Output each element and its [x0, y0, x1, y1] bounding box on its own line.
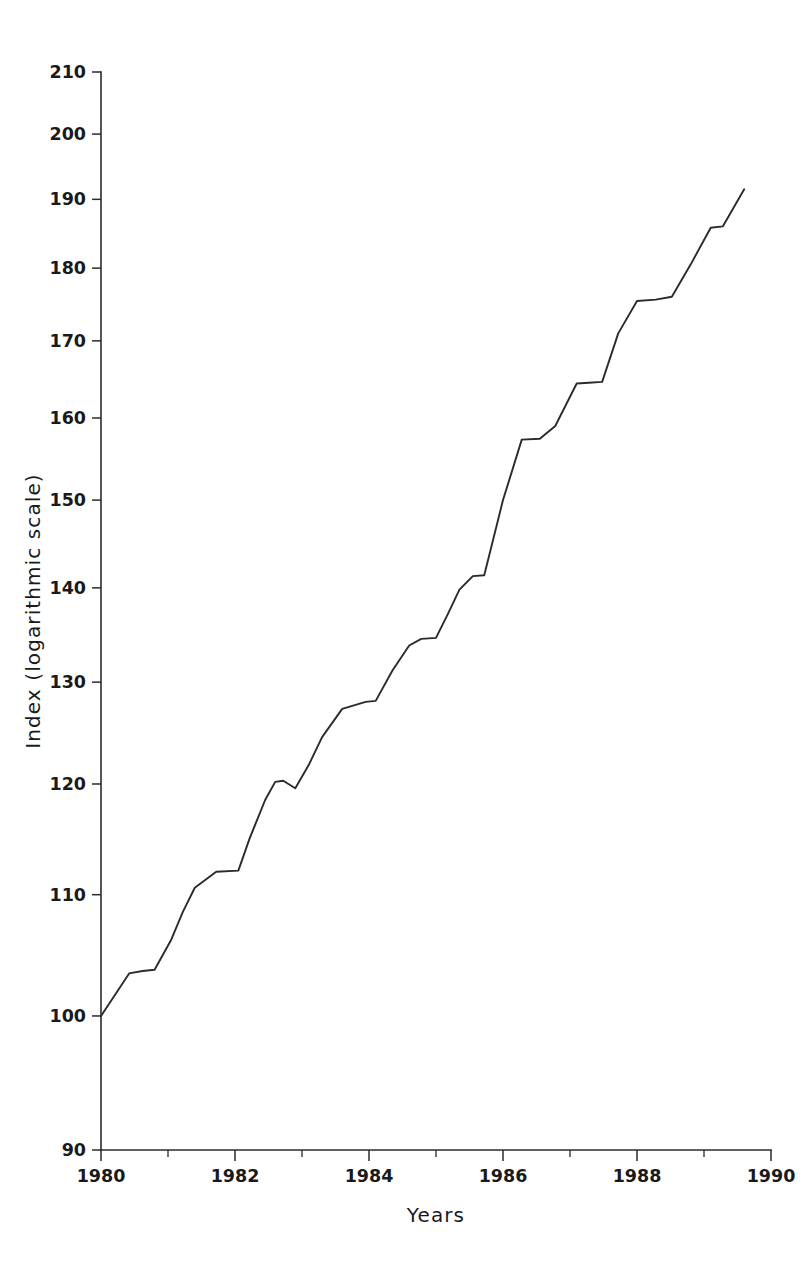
x-tick-label: 1986: [479, 1166, 528, 1186]
y-tick-label: 210: [49, 62, 86, 82]
y-tick-label: 110: [49, 885, 86, 905]
x-tick-label: 1980: [77, 1166, 126, 1186]
x-axis-title: Years: [406, 1203, 465, 1227]
x-axis-ticks: [101, 1150, 771, 1161]
y-axis-title: Index (logarithmic scale): [21, 473, 45, 749]
x-tick-label: 1988: [613, 1166, 662, 1186]
y-tick-label: 100: [49, 1006, 86, 1026]
y-tick-label: 170: [49, 331, 86, 351]
x-axis-tick-labels: 198019821984198619881990: [77, 1166, 796, 1186]
y-axis-tick-labels: 90100110120130140150160170180190200210: [49, 62, 86, 1160]
x-tick-label: 1990: [747, 1166, 796, 1186]
y-tick-label: 190: [49, 189, 86, 209]
x-tick-label: 1984: [345, 1166, 394, 1186]
chart-container: 90100110120130140150160170180190200210 1…: [0, 0, 805, 1278]
y-tick-label: 180: [49, 258, 86, 278]
y-tick-label: 90: [62, 1140, 86, 1160]
y-tick-label: 160: [49, 408, 86, 428]
x-tick-label: 1982: [211, 1166, 260, 1186]
y-tick-label: 130: [49, 672, 86, 692]
y-tick-label: 120: [49, 774, 86, 794]
y-tick-label: 140: [49, 578, 86, 598]
y-tick-label: 150: [49, 490, 86, 510]
y-tick-label: 200: [49, 124, 86, 144]
y-axis-ticks: [92, 72, 101, 1150]
data-series-line: [101, 189, 744, 1016]
line-chart-plot: 90100110120130140150160170180190200210 1…: [0, 0, 805, 1278]
